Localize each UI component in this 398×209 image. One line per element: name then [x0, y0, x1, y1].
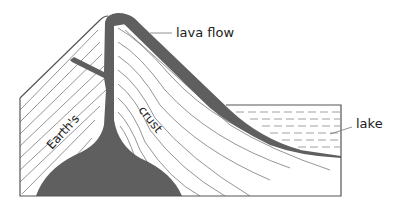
lake-label: lake	[356, 116, 383, 131]
volcano-diagram: lava flow lake Earth's crust	[0, 0, 398, 209]
lava-flow-label: lava flow	[176, 25, 235, 40]
